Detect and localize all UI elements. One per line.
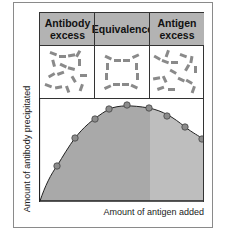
header-label: excess xyxy=(50,29,85,41)
antibody-excess-lattice-icon xyxy=(40,46,94,98)
header-antibody-excess: Antibodyexcess xyxy=(40,13,95,46)
header-antigen-excess: Antigenexcess xyxy=(150,13,204,46)
zone-table: Antibodyexcess Equivalence Antigenexcess xyxy=(39,12,204,99)
x-axis-label: Amount of antigen added xyxy=(103,207,204,217)
equivalence-lattice-icon xyxy=(95,46,149,98)
antigen-excess-lattice-icon xyxy=(150,46,204,98)
precipitin-chart xyxy=(39,98,204,202)
header-label: Antigen xyxy=(157,17,196,29)
header-label: Equivalence xyxy=(92,23,153,35)
header-equivalence: Equivalence xyxy=(95,13,150,46)
y-axis-label: Amount of antibody precipitated xyxy=(22,86,32,213)
header-label: excess xyxy=(159,29,194,41)
header-label: Antibody xyxy=(45,17,91,29)
